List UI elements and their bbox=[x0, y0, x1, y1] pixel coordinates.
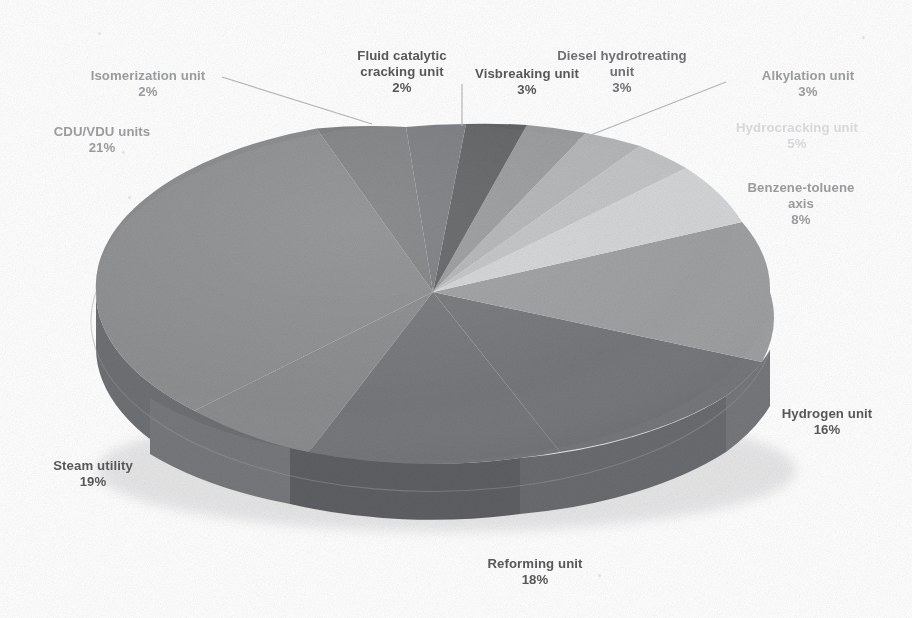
label-isomerization-unit: Isomerization unit 2% bbox=[48, 68, 248, 100]
label-hydrogen-unit: Hydrogen unit 16% bbox=[752, 406, 902, 438]
label-steam-utility: Steam utility 19% bbox=[18, 458, 168, 490]
scan-speck bbox=[98, 32, 101, 35]
label-benzene-toluene-axis-name: Benzene-toluene bbox=[716, 180, 886, 196]
label-diesel-hydrotreating-unit-name: Diesel hydrotreating bbox=[532, 48, 712, 64]
label-hydrogen-unit-value: 16% bbox=[752, 422, 902, 438]
label-hydrogen-unit-name: Hydrogen unit bbox=[752, 406, 902, 422]
label-alkylation-unit: Alkylation unit 3% bbox=[728, 68, 888, 100]
label-diesel-hydrotreating-unit-value: 3% bbox=[532, 80, 712, 96]
scan-speck bbox=[862, 36, 865, 39]
label-hydrocracking-unit-name: Hydrocracking unit bbox=[708, 120, 886, 136]
label-benzene-toluene-axis-name2: axis bbox=[716, 196, 886, 212]
label-fluid-catalytic-cracking-unit-name: Fluid catalytic bbox=[322, 48, 482, 64]
label-isomerization-unit-value: 2% bbox=[48, 84, 248, 100]
label-alkylation-unit-name: Alkylation unit bbox=[728, 68, 888, 84]
scan-speck bbox=[128, 196, 131, 199]
label-cdu-vdu-units: CDU/VDU units 21% bbox=[12, 124, 192, 156]
label-hydrocracking-unit: Hydrocracking unit 5% bbox=[708, 120, 886, 152]
label-reforming-unit: Reforming unit 18% bbox=[450, 556, 620, 588]
label-reforming-unit-value: 18% bbox=[450, 572, 620, 588]
label-diesel-hydrotreating-unit: Diesel hydrotreating unit 3% bbox=[532, 48, 712, 96]
label-steam-utility-value: 19% bbox=[18, 474, 168, 490]
label-isomerization-unit-name: Isomerization unit bbox=[48, 68, 248, 84]
label-hydrocracking-unit-value: 5% bbox=[708, 136, 886, 152]
label-alkylation-unit-value: 3% bbox=[728, 84, 888, 100]
label-cdu-vdu-units-value: 21% bbox=[12, 140, 192, 156]
chart-canvas: Isomerization unit 2% Fluid catalytic cr… bbox=[0, 0, 912, 618]
label-reforming-unit-name: Reforming unit bbox=[450, 556, 620, 572]
label-cdu-vdu-units-name: CDU/VDU units bbox=[12, 124, 192, 140]
label-diesel-hydrotreating-unit-name2: unit bbox=[532, 64, 712, 80]
label-benzene-toluene-axis-value: 8% bbox=[716, 212, 886, 228]
label-steam-utility-name: Steam utility bbox=[18, 458, 168, 474]
label-benzene-toluene-axis: Benzene-toluene axis 8% bbox=[716, 180, 886, 228]
